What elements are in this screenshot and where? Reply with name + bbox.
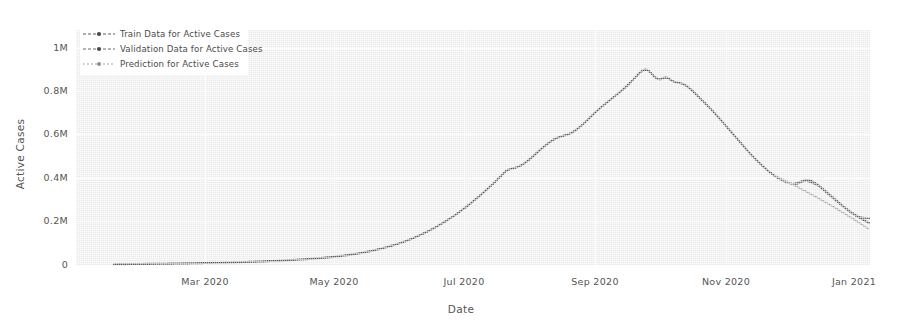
- legend-key-prediction-icon: [82, 58, 116, 70]
- y-tick-1M: 1M: [8, 42, 68, 53]
- y-tick-0.2M: 0.2M: [8, 215, 68, 226]
- chart-figure: Train Data for Active Cases Validation D…: [0, 0, 922, 331]
- legend-item-prediction[interactable]: Prediction for Active Cases: [82, 56, 244, 71]
- x-axis-label: Date: [0, 303, 922, 315]
- x-tick-may-2020: May 2020: [289, 276, 379, 287]
- x-tick-nov-2020: Nov 2020: [681, 276, 771, 287]
- legend-item-validation[interactable]: Validation Data for Active Cases: [82, 41, 244, 56]
- legend-key-validation-icon: [82, 43, 116, 55]
- legend-item-train[interactable]: Train Data for Active Cases: [82, 26, 244, 41]
- x-tick-jan-2021: Jan 2021: [809, 276, 899, 287]
- legend-label-prediction: Prediction for Active Cases: [120, 59, 239, 69]
- x-tick-sep-2020: Sep 2020: [550, 276, 640, 287]
- series-line-validation: [794, 180, 869, 218]
- y-tick-0: 0: [8, 259, 68, 270]
- legend-key-train-icon: [82, 28, 116, 40]
- legend-label-validation: Validation Data for Active Cases: [120, 44, 263, 54]
- y-axis-label: Active Cases: [14, 94, 26, 214]
- x-tick-mar-2020: Mar 2020: [160, 276, 250, 287]
- plot-area: Train Data for Active Cases Validation D…: [76, 30, 870, 266]
- legend-label-train: Train Data for Active Cases: [120, 29, 240, 39]
- x-tick-jul-2020: Jul 2020: [419, 276, 509, 287]
- series-line-train: [114, 70, 869, 265]
- chart-legend[interactable]: Train Data for Active Cases Validation D…: [80, 22, 248, 75]
- series-line-prediction: [776, 176, 869, 229]
